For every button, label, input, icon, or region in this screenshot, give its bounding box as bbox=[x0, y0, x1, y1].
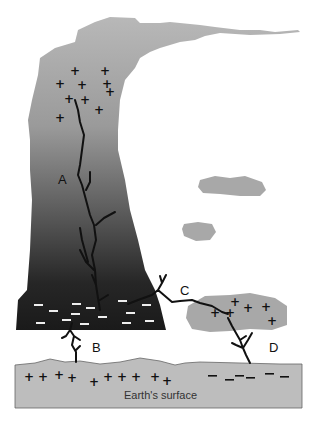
svg-text:+: + bbox=[89, 375, 99, 389]
svg-text:+: + bbox=[94, 103, 104, 117]
svg-text:+: + bbox=[38, 370, 48, 384]
svg-text:+: + bbox=[55, 111, 65, 125]
svg-text:+: + bbox=[64, 92, 74, 106]
label-b: B bbox=[92, 340, 101, 355]
svg-text:+: + bbox=[77, 78, 87, 92]
label-d: D bbox=[269, 340, 278, 355]
svg-text:+: + bbox=[261, 300, 271, 314]
svg-text:+: + bbox=[54, 368, 64, 382]
svg-text:+: + bbox=[24, 370, 34, 384]
svg-text:+: + bbox=[105, 85, 115, 99]
small-cloud-lower bbox=[182, 222, 216, 241]
svg-text:+: + bbox=[80, 93, 90, 107]
svg-text:+: + bbox=[103, 370, 113, 384]
svg-text:+: + bbox=[162, 374, 172, 388]
label-c: C bbox=[180, 283, 189, 298]
svg-text:+: + bbox=[243, 301, 253, 315]
small-cloud-upper bbox=[198, 176, 266, 196]
lightning-diagram: + + + + + + + + + + + + + + + + + bbox=[0, 0, 316, 421]
svg-text:+: + bbox=[67, 371, 77, 385]
earth-surface-label: Earth's surface bbox=[124, 389, 197, 401]
svg-text:+: + bbox=[117, 370, 127, 384]
svg-text:+: + bbox=[150, 370, 160, 384]
svg-text:+: + bbox=[267, 314, 277, 328]
svg-text:+: + bbox=[131, 370, 141, 384]
svg-text:+: + bbox=[100, 64, 110, 78]
svg-text:+: + bbox=[55, 77, 65, 91]
label-a: A bbox=[58, 172, 67, 187]
svg-text:+: + bbox=[70, 64, 80, 78]
